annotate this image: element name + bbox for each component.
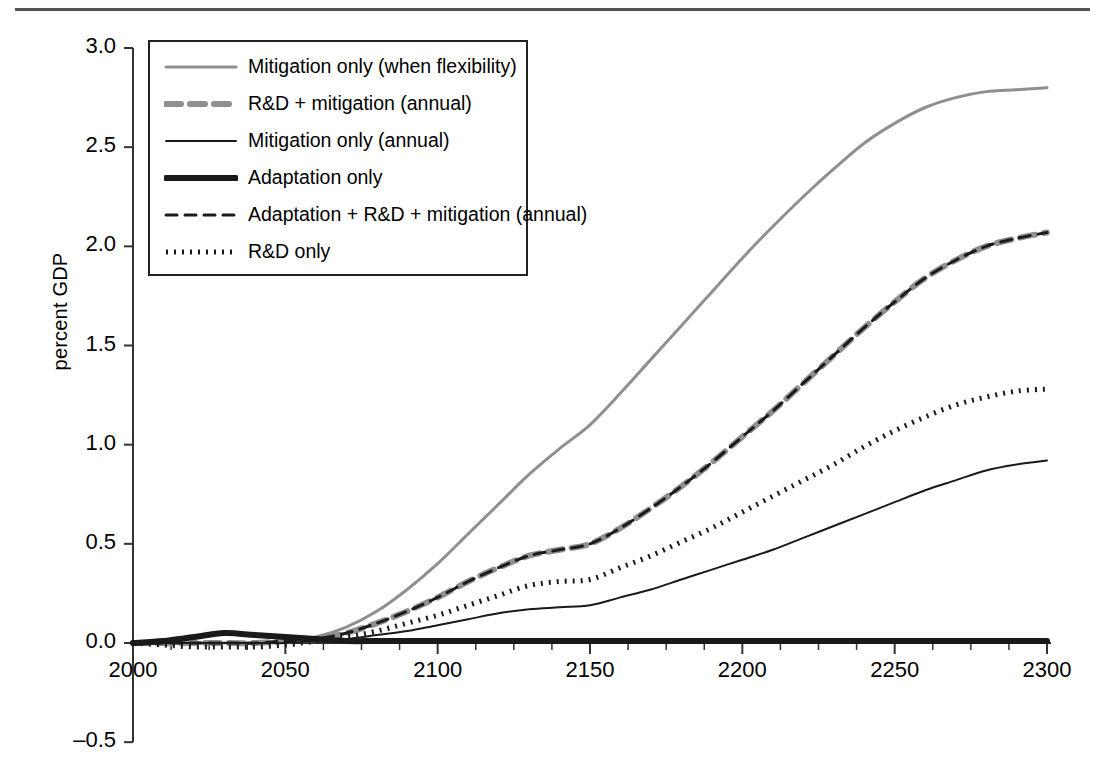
legend-item-label: R&D only — [248, 240, 330, 263]
legend-item-label: Adaptation + R&D + mitigation (annual) — [248, 203, 587, 226]
legend-item: Adaptation + R&D + mitigation (annual) — [150, 196, 526, 233]
legend-item: Mitigation only (annual) — [150, 122, 526, 159]
legend-item: Mitigation only (when flexibility) — [150, 48, 526, 85]
legend-item-label: Adaptation only — [248, 166, 382, 189]
series-line — [133, 389, 1047, 647]
legend-line-swatch-icon — [164, 95, 238, 113]
legend-line-swatch-icon — [164, 206, 238, 224]
legend-rows: Mitigation only (when flexibility)R&D + … — [150, 48, 526, 270]
legend-item-label: Mitigation only (when flexibility) — [248, 55, 517, 78]
series-line — [133, 461, 1047, 644]
legend-line-swatch-icon — [164, 58, 238, 76]
legend-item: R&D + mitigation (annual) — [150, 85, 526, 122]
legend-line-swatch-icon — [164, 243, 238, 261]
legend-line-swatch-icon — [164, 169, 238, 187]
legend-item: R&D only — [150, 233, 526, 270]
legend-item-label: Mitigation only (annual) — [248, 129, 450, 152]
legend-item-label: R&D + mitigation (annual) — [248, 92, 472, 115]
legend-line-swatch-icon — [164, 132, 238, 150]
legend-item: Adaptation only — [150, 159, 526, 196]
figure: percent GDP 3.02.52.01.51.00.50.0–0.5 20… — [0, 0, 1104, 784]
legend: Mitigation only (when flexibility)R&D + … — [148, 40, 528, 276]
